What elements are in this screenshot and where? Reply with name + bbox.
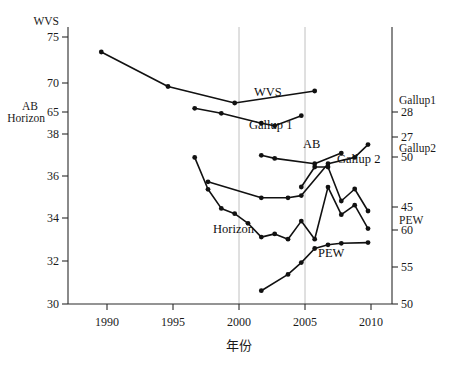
- line-chart: 75 70 65 38 36 34 32 30 WVS AB Horizon: [0, 0, 451, 368]
- data-point: [232, 211, 237, 216]
- right-axis-name-gallup2: Gallup2: [399, 142, 436, 155]
- series-line: [101, 52, 314, 103]
- left-tick-label-36: 36: [47, 169, 59, 183]
- series-line: [301, 167, 368, 211]
- right-axis-name-gallup1: Gallup1: [399, 94, 436, 107]
- series-horizon: [206, 142, 371, 200]
- series-label-gallup1: Gallup 1: [249, 118, 292, 132]
- data-point: [206, 187, 211, 192]
- x-tick-label-1990: 1990: [95, 315, 119, 329]
- right-tick-label-45: 45: [401, 200, 413, 214]
- x-tick-label-2005: 2005: [293, 315, 317, 329]
- data-point: [219, 206, 224, 211]
- left-tick-label-34: 34: [47, 211, 59, 225]
- x-axis-title: 年份: [226, 338, 252, 353]
- data-point: [326, 185, 331, 190]
- data-point: [366, 209, 371, 214]
- x-axis-ticks: [107, 304, 371, 310]
- series-wvs: [99, 50, 317, 106]
- data-point: [219, 111, 224, 116]
- data-point: [272, 232, 277, 237]
- series-label-pew: PEW: [318, 246, 345, 260]
- series-label-gallup2: Gallup 2: [337, 152, 380, 166]
- data-point: [339, 199, 344, 204]
- data-point: [299, 219, 304, 224]
- data-point: [312, 165, 317, 170]
- series-label-wvs: WVS: [254, 85, 282, 99]
- left-axis-ticks: [62, 37, 68, 304]
- gridlines: [239, 27, 305, 304]
- left-tick-label-38: 38: [47, 127, 59, 141]
- data-point: [352, 187, 357, 192]
- data-point: [206, 179, 211, 184]
- x-tick-label-2000: 2000: [227, 315, 251, 329]
- data-point: [366, 240, 371, 245]
- data-point: [339, 241, 344, 246]
- right-axis-ticks: [392, 112, 398, 304]
- right-axis-tick-labels: 28 27 50 45 60 55 50: [401, 105, 413, 311]
- data-point: [272, 156, 277, 161]
- left-axis-name-ab: AB: [22, 100, 38, 112]
- data-point: [286, 272, 291, 277]
- data-point: [99, 50, 104, 55]
- left-tick-label-30: 30: [47, 297, 59, 311]
- data-point: [312, 237, 317, 242]
- data-point: [259, 288, 264, 293]
- data-point: [366, 142, 371, 147]
- data-point: [299, 193, 304, 198]
- x-axis-tick-labels: 1990 1995 2000 2005 2010: [95, 315, 383, 329]
- right-tick-label-50-pew: 50: [401, 297, 413, 311]
- series-gallup-2: [299, 165, 371, 214]
- data-point: [192, 106, 197, 111]
- left-axis-name-wvs: WVS: [33, 15, 59, 27]
- right-tick-label-55: 55: [401, 260, 413, 274]
- data-point: [352, 203, 357, 208]
- right-axis-name-pew: PEW: [399, 214, 423, 226]
- data-point: [259, 153, 264, 158]
- data-point: [299, 113, 304, 118]
- data-point: [366, 226, 371, 231]
- series-label-horizon: Horizon: [213, 222, 255, 236]
- data-point: [232, 101, 237, 106]
- x-tick-label-2010: 2010: [359, 315, 383, 329]
- data-point: [326, 161, 331, 166]
- left-tick-label-75: 75: [47, 30, 59, 44]
- left-tick-label-32: 32: [47, 254, 59, 268]
- series-label-ab: AB: [303, 137, 320, 151]
- data-point: [339, 212, 344, 217]
- left-tick-label-65: 65: [47, 105, 59, 119]
- series-pew: [259, 240, 371, 293]
- left-tick-label-70: 70: [47, 76, 59, 90]
- x-tick-label-1995: 1995: [161, 315, 185, 329]
- data-point: [312, 89, 317, 94]
- data-point: [259, 195, 264, 200]
- data-point: [299, 260, 304, 265]
- left-axis-name-horizon: Horizon: [7, 112, 45, 124]
- data-point: [312, 246, 317, 251]
- data-point: [299, 185, 304, 190]
- data-point: [286, 237, 291, 242]
- right-tick-label-28: 28: [401, 105, 413, 119]
- data-point: [166, 84, 171, 89]
- chart-container: 75 70 65 38 36 34 32 30 WVS AB Horizon: [0, 0, 451, 368]
- data-point: [192, 155, 197, 160]
- data-point: [259, 235, 264, 240]
- left-axis-tick-labels: 75 70 65 38 36 34 32 30: [47, 30, 59, 311]
- series-inline-labels: WVS Gallup 1 AB Gallup 2 Horizon PEW: [213, 85, 380, 260]
- data-point: [286, 195, 291, 200]
